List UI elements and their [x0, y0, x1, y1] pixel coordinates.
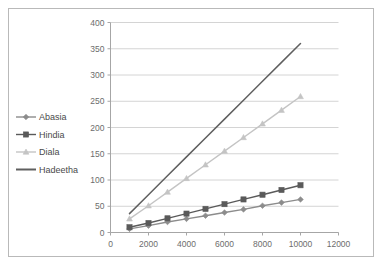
data-point-hindia-2000 — [146, 220, 151, 225]
series-line-abasia — [130, 199, 301, 228]
data-point-hindia-10000 — [298, 183, 303, 188]
data-point-hindia-3000 — [165, 216, 170, 221]
x-tick-label-2000: 2000 — [139, 239, 158, 249]
legend-item-hindia[interactable]: Hindia — [16, 130, 65, 140]
legend-label-hindia: Hindia — [39, 130, 65, 140]
x-tick-label-8000: 8000 — [253, 239, 272, 249]
x-axis-tick-labels: 020004000600080001000012000 — [108, 239, 350, 249]
y-tick-label-400: 400 — [90, 18, 104, 28]
data-point-hindia-8000 — [260, 192, 265, 197]
y-tick-label-50: 50 — [95, 201, 105, 211]
y-tick-label-200: 200 — [90, 123, 104, 133]
legend-label-diala: Diala — [39, 147, 60, 157]
data-point-abasia-8000 — [260, 203, 266, 209]
data-point-hindia-4000 — [184, 211, 189, 216]
legend-item-diala[interactable]: Diala — [16, 147, 60, 157]
x-tick-label-4000: 4000 — [177, 239, 196, 249]
data-point-diala-10000 — [298, 94, 304, 99]
data-point-hindia-6000 — [222, 202, 227, 207]
legend-item-abasia[interactable]: Abasia — [16, 112, 67, 122]
chart-container: 050100150200250300350400 020004000600080… — [0, 0, 384, 273]
series-line-diala — [130, 97, 301, 219]
data-point-abasia-5000 — [203, 213, 209, 219]
x-tick-label-10000: 10000 — [289, 239, 313, 249]
x-tick-label-12000: 12000 — [327, 239, 351, 249]
data-point-hindia-1000 — [127, 225, 132, 230]
series-hadeetha — [130, 44, 301, 214]
x-tick-label-6000: 6000 — [215, 239, 234, 249]
y-tick-label-150: 150 — [90, 149, 104, 159]
gridlines-group — [111, 23, 339, 233]
data-point-abasia-9000 — [279, 200, 285, 206]
legend-item-hadeetha[interactable]: Hadeetha — [16, 165, 78, 175]
y-tick-label-100: 100 — [90, 175, 104, 185]
data-point-abasia-6000 — [222, 210, 228, 216]
legend-marker-hindia — [23, 132, 28, 137]
y-tick-label-0: 0 — [100, 228, 105, 238]
y-axis-tick-labels: 050100150200250300350400 — [90, 18, 104, 238]
chart-legend: AbasiaHindiaDialaHadeetha — [16, 112, 78, 175]
series-group — [127, 44, 304, 232]
legend-marker-abasia — [23, 114, 29, 120]
y-tick-label-250: 250 — [90, 96, 104, 106]
series-diala — [127, 94, 304, 222]
data-point-hindia-7000 — [241, 197, 246, 202]
data-point-abasia-7000 — [241, 207, 247, 213]
data-point-hindia-9000 — [279, 187, 284, 192]
data-point-abasia-10000 — [298, 197, 304, 203]
series-line-hadeetha — [130, 44, 301, 214]
legend-label-abasia: Abasia — [39, 112, 67, 122]
y-tick-label-300: 300 — [90, 70, 104, 80]
data-point-abasia-4000 — [184, 216, 190, 222]
legend-label-hadeetha: Hadeetha — [39, 165, 78, 175]
y-tick-label-350: 350 — [90, 44, 104, 54]
line-chart: 050100150200250300350400 020004000600080… — [0, 0, 384, 273]
x-tick-label-0: 0 — [108, 239, 113, 249]
data-point-hindia-5000 — [203, 206, 208, 211]
